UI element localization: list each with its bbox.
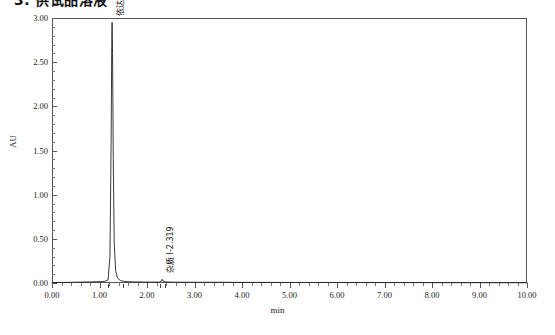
y-tick-minor (52, 257, 55, 258)
x-tick-minor (271, 283, 272, 286)
y-tick-minor (52, 204, 55, 205)
y-tick-minor (52, 45, 55, 46)
x-tick-minor (176, 283, 177, 286)
y-tick-minor (52, 168, 55, 169)
x-tick-minor (375, 283, 376, 286)
integration-mark (123, 284, 124, 288)
x-tick-label: 6.00 (317, 291, 357, 300)
x-tick-major (100, 283, 101, 288)
x-tick-label: 8.00 (412, 291, 452, 300)
x-tick-minor (451, 283, 452, 286)
x-tick-minor (461, 283, 462, 286)
plot-frame (52, 18, 527, 283)
peak-label: 依达拉奉-1.265 (116, 0, 125, 16)
y-tick-minor (52, 27, 55, 28)
integration-mark (108, 284, 109, 288)
y-tick-label: 2.00 (14, 102, 48, 111)
x-tick-minor (309, 283, 310, 286)
x-tick-minor (366, 283, 367, 286)
x-tick-label: 1.00 (80, 291, 120, 300)
y-tick-label: 2.50 (14, 58, 48, 67)
y-tick-minor (52, 159, 55, 160)
x-tick-minor (157, 283, 158, 286)
y-tick-minor (52, 186, 55, 187)
y-tick-minor (52, 89, 55, 90)
x-tick-minor (252, 283, 253, 286)
x-tick-minor (185, 283, 186, 286)
x-tick-minor (109, 283, 110, 286)
y-tick-minor (52, 133, 55, 134)
x-tick-minor (204, 283, 205, 286)
x-tick-minor (62, 283, 63, 286)
integration-mark (160, 284, 161, 288)
x-tick-minor (413, 283, 414, 286)
y-tick-minor (52, 221, 55, 222)
x-tick-minor (223, 283, 224, 286)
y-tick-label: 3.00 (14, 14, 48, 23)
x-tick-major (337, 283, 338, 288)
x-tick-major (527, 283, 528, 288)
y-tick-minor (52, 98, 55, 99)
y-tick-label: 0.00 (14, 279, 48, 288)
x-tick-major (290, 283, 291, 288)
x-tick-minor (489, 283, 490, 286)
y-tick-major (52, 18, 57, 19)
y-tick-major (52, 195, 57, 196)
x-tick-minor (394, 283, 395, 286)
x-tick-minor (423, 283, 424, 286)
y-tick-label: 1.00 (14, 191, 48, 200)
x-tick-minor (508, 283, 509, 286)
x-tick-minor (81, 283, 82, 286)
y-tick-minor (52, 248, 55, 249)
y-tick-minor (52, 142, 55, 143)
x-tick-minor (71, 283, 72, 286)
y-tick-minor (52, 212, 55, 213)
y-tick-major (52, 106, 57, 107)
x-tick-major (147, 283, 148, 288)
x-tick-major (52, 283, 53, 288)
x-tick-label: 2.00 (127, 291, 167, 300)
x-tick-minor (261, 283, 262, 286)
y-tick-minor (52, 80, 55, 81)
y-tick-label: 1.50 (14, 147, 48, 156)
x-tick-minor (470, 283, 471, 286)
x-tick-label: 5.00 (270, 291, 310, 300)
y-tick-major (52, 239, 57, 240)
y-tick-minor (52, 115, 55, 116)
x-tick-minor (347, 283, 348, 286)
x-tick-minor (318, 283, 319, 286)
x-tick-label: 10.00 (507, 291, 547, 300)
y-tick-major (52, 151, 57, 152)
x-tick-minor (499, 283, 500, 286)
y-tick-minor (52, 53, 55, 54)
x-tick-minor (280, 283, 281, 286)
x-tick-label: 0.00 (32, 291, 72, 300)
x-tick-major (242, 283, 243, 288)
x-tick-minor (90, 283, 91, 286)
y-tick-minor (52, 177, 55, 178)
x-tick-major (432, 283, 433, 288)
y-tick-minor (52, 274, 55, 275)
x-tick-minor (233, 283, 234, 286)
x-axis-label: min (0, 305, 555, 315)
x-tick-major (480, 283, 481, 288)
x-tick-minor (119, 283, 120, 286)
x-tick-minor (128, 283, 129, 286)
x-tick-label: 3.00 (175, 291, 215, 300)
y-tick-minor (52, 71, 55, 72)
x-tick-minor (442, 283, 443, 286)
x-tick-minor (328, 283, 329, 286)
x-tick-label: 7.00 (365, 291, 405, 300)
y-tick-minor (52, 265, 55, 266)
x-tick-label: 4.00 (222, 291, 262, 300)
y-tick-minor (52, 124, 55, 125)
x-tick-minor (299, 283, 300, 286)
y-tick-minor (52, 230, 55, 231)
x-tick-minor (518, 283, 519, 286)
x-tick-minor (214, 283, 215, 286)
x-tick-major (195, 283, 196, 288)
x-tick-minor (404, 283, 405, 286)
chromatogram-figure: AU min 0.000.501.001.502.002.503.00 0.00… (0, 0, 555, 335)
x-tick-minor (166, 283, 167, 286)
y-tick-minor (52, 36, 55, 37)
